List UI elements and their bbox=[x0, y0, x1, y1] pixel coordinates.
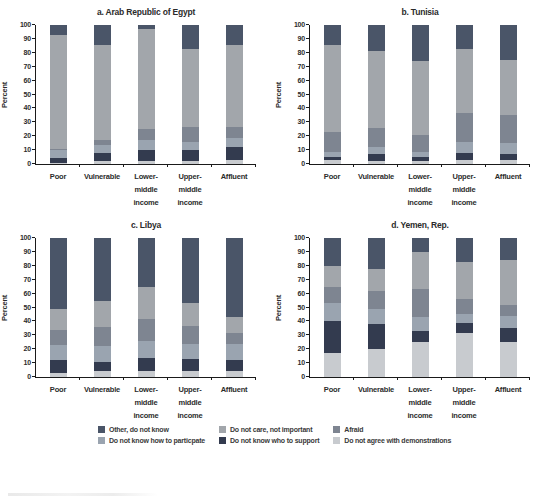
x-category-line: income bbox=[168, 196, 212, 209]
bar-segment bbox=[368, 161, 385, 164]
y-tick-label: 90 bbox=[24, 248, 31, 256]
y-axis-label: Percent bbox=[274, 238, 285, 377]
y-tick-label: 10 bbox=[24, 146, 31, 154]
bar-segment bbox=[324, 132, 341, 151]
y-tick-label: 60 bbox=[298, 77, 305, 85]
bar-segment bbox=[500, 25, 517, 60]
x-category-label: Lower-middleincome bbox=[398, 170, 442, 209]
bar-segment bbox=[456, 153, 473, 160]
figure-page: a. Arab Republic of Egypt Percent 010203… bbox=[0, 0, 549, 496]
legend-swatch-icon bbox=[333, 426, 340, 433]
x-labels: PoorVulnerableLower-middleincomeUpper-mi… bbox=[310, 170, 548, 209]
y-tick-label: 50 bbox=[298, 91, 305, 99]
bar-segment bbox=[412, 61, 429, 135]
x-category-line: Upper- bbox=[442, 383, 486, 396]
y-tick-label: 40 bbox=[298, 104, 305, 112]
x-category-line: income bbox=[398, 409, 442, 422]
legend-label: Do not care, not important bbox=[230, 426, 312, 433]
bar-segment bbox=[226, 147, 243, 160]
legend-item: Do not care, not important bbox=[219, 426, 319, 433]
x-tick bbox=[167, 164, 168, 167]
bar-segment bbox=[368, 128, 385, 147]
bar-segment bbox=[324, 238, 341, 266]
x-category-line: middle bbox=[398, 183, 442, 196]
legend-item: Do not know who to support bbox=[219, 437, 319, 444]
bar-segment bbox=[368, 269, 385, 291]
x-tick bbox=[211, 164, 212, 167]
legend-item: Other, do not know bbox=[98, 426, 205, 433]
legend-item: Do not agree with demonstrations bbox=[333, 437, 451, 444]
x-category-line: Lower- bbox=[398, 170, 442, 183]
bar-segment bbox=[182, 303, 199, 325]
y-tick-label: 70 bbox=[298, 276, 305, 284]
bar-segment bbox=[456, 113, 473, 142]
bar bbox=[324, 238, 341, 377]
x-category-label: Poor bbox=[36, 170, 80, 209]
x-tick bbox=[353, 377, 354, 380]
y-axis: 0102030405060708090100 bbox=[285, 25, 309, 164]
bar-segment bbox=[50, 360, 67, 373]
x-tick bbox=[123, 164, 124, 167]
bar-segment bbox=[138, 238, 155, 287]
bar-segment bbox=[456, 314, 473, 322]
bar-segment bbox=[50, 345, 67, 360]
bar-segment bbox=[50, 163, 67, 164]
x-category-line: Upper- bbox=[168, 383, 212, 396]
y-tick-label: 100 bbox=[20, 21, 31, 29]
y-tick-label: 10 bbox=[298, 146, 305, 154]
x-category-line: middle bbox=[124, 183, 168, 196]
bar-segment bbox=[324, 353, 341, 377]
y-tick-label: 90 bbox=[24, 35, 31, 43]
x-category-line: income bbox=[442, 409, 486, 422]
y-tick-label: 60 bbox=[298, 290, 305, 298]
bar-segment bbox=[226, 127, 243, 138]
y-tick-label: 30 bbox=[24, 118, 31, 126]
x-tick bbox=[79, 164, 80, 167]
bar bbox=[368, 238, 385, 377]
bar-segment bbox=[182, 49, 199, 127]
plot-area bbox=[35, 25, 256, 165]
bar-segment bbox=[368, 238, 385, 269]
x-category-line: Affluent bbox=[486, 170, 530, 183]
y-tick-label: 80 bbox=[24, 262, 31, 270]
bar-segment bbox=[324, 266, 341, 287]
x-category-line: income bbox=[124, 196, 168, 209]
bar-segment bbox=[182, 25, 199, 49]
x-tick bbox=[353, 164, 354, 167]
x-category-line: Lower- bbox=[398, 383, 442, 396]
bar-segment bbox=[226, 360, 243, 371]
y-axis-label: Percent bbox=[0, 25, 11, 164]
bar bbox=[94, 238, 111, 377]
x-category-label: Vulnerable bbox=[80, 383, 124, 422]
legend-item: Do not know how to particpate bbox=[98, 437, 205, 444]
bar-segment bbox=[50, 25, 67, 35]
bar-segment bbox=[324, 25, 341, 44]
y-tick-label: 50 bbox=[298, 304, 305, 312]
x-tick bbox=[255, 377, 256, 380]
bar-segment bbox=[182, 127, 199, 142]
y-tick-label: 0 bbox=[301, 373, 305, 381]
bar-segment bbox=[500, 115, 517, 143]
y-tick-label: 80 bbox=[24, 49, 31, 57]
x-category-line: income bbox=[398, 196, 442, 209]
x-tick bbox=[485, 377, 486, 380]
bar bbox=[412, 238, 429, 377]
bar-segment bbox=[94, 45, 111, 141]
x-tick bbox=[529, 377, 530, 380]
x-category-line: Vulnerable bbox=[80, 170, 124, 183]
bar-segment bbox=[412, 238, 429, 252]
bar-segment bbox=[412, 135, 429, 152]
x-category-line: Poor bbox=[36, 170, 80, 183]
x-category-line: middle bbox=[442, 183, 486, 196]
bar bbox=[138, 238, 155, 377]
x-labels: PoorVulnerableLower-middleincomeUpper-mi… bbox=[36, 170, 274, 209]
legend-swatch-icon bbox=[333, 437, 340, 444]
bar-segment bbox=[500, 342, 517, 377]
bar-segment bbox=[138, 358, 155, 372]
x-category-label: Lower-middleincome bbox=[124, 383, 168, 422]
bar-segment bbox=[456, 323, 473, 333]
y-tick-label: 20 bbox=[24, 132, 31, 140]
y-tick-label: 100 bbox=[294, 234, 305, 242]
x-category-line: Vulnerable bbox=[354, 383, 398, 396]
bar-segment bbox=[94, 371, 111, 377]
